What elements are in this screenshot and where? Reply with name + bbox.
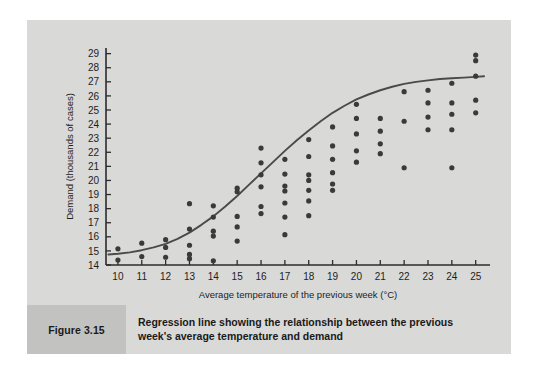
svg-text:14: 14 xyxy=(208,271,220,282)
svg-text:17: 17 xyxy=(279,271,291,282)
axis-labels-group: 1415161718192021222324252627282910111213… xyxy=(64,48,482,300)
figure-caption-text: Regression line showing the relationship… xyxy=(138,316,468,343)
svg-text:19: 19 xyxy=(88,189,100,200)
svg-text:27: 27 xyxy=(88,76,100,87)
svg-text:13: 13 xyxy=(184,271,196,282)
svg-text:20: 20 xyxy=(351,271,363,282)
svg-text:16: 16 xyxy=(255,271,267,282)
figure-caption-strip: Figure 3.15 Regression line showing the … xyxy=(27,305,511,354)
figure-panel: 1415161718192021222324252627282910111213… xyxy=(27,20,511,354)
svg-text:24: 24 xyxy=(446,271,458,282)
svg-text:15: 15 xyxy=(88,246,100,257)
data-points-group xyxy=(115,52,478,263)
svg-text:24: 24 xyxy=(88,119,100,130)
svg-text:12: 12 xyxy=(160,271,172,282)
svg-text:26: 26 xyxy=(88,91,100,102)
svg-text:21: 21 xyxy=(375,271,387,282)
figure-number: Figure 3.15 xyxy=(27,305,126,354)
svg-text:25: 25 xyxy=(88,105,100,116)
svg-text:23: 23 xyxy=(88,133,100,144)
figure-root: 1415161718192021222324252627282910111213… xyxy=(0,0,548,369)
figure-caption-body: Regression line showing the relationship… xyxy=(126,305,511,354)
svg-text:23: 23 xyxy=(422,271,434,282)
svg-text:Average temperature of the pre: Average temperature of the previous week… xyxy=(199,289,397,300)
svg-text:19: 19 xyxy=(327,271,339,282)
svg-text:15: 15 xyxy=(232,271,244,282)
svg-text:10: 10 xyxy=(112,271,124,282)
svg-text:16: 16 xyxy=(88,231,100,242)
svg-text:21: 21 xyxy=(88,161,100,172)
svg-text:22: 22 xyxy=(88,147,100,158)
svg-text:17: 17 xyxy=(88,217,100,228)
svg-text:18: 18 xyxy=(88,203,100,214)
svg-text:22: 22 xyxy=(399,271,411,282)
svg-text:25: 25 xyxy=(470,271,482,282)
svg-text:28: 28 xyxy=(88,62,100,73)
scatter-plot: 1415161718192021222324252627282910111213… xyxy=(27,20,511,302)
svg-text:29: 29 xyxy=(88,48,100,59)
svg-text:20: 20 xyxy=(88,175,100,186)
plot-region: 1415161718192021222324252627282910111213… xyxy=(27,20,511,302)
svg-text:18: 18 xyxy=(303,271,315,282)
svg-text:14: 14 xyxy=(88,260,100,271)
svg-text:11: 11 xyxy=(137,271,148,282)
svg-text:Demand (thousands of cases): Demand (thousands of cases) xyxy=(64,93,75,220)
